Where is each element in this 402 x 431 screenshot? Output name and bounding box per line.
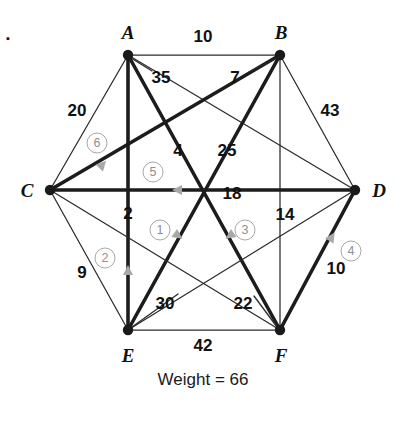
vertex-dot-B: [275, 50, 285, 60]
graph-figure: 10203524743251418922301042ABCDEF123456 .…: [0, 0, 402, 431]
edge-weight-BD: 43: [321, 102, 340, 119]
edge-weight-DE: 30: [156, 295, 175, 312]
step-order-marker-5: 5: [143, 162, 164, 183]
edge-weight-BC: 7: [230, 69, 239, 86]
edge-CE: [50, 190, 128, 330]
edge-weight-BF: 14: [276, 206, 295, 223]
vertex-label-B: B: [275, 23, 288, 42]
edge-weight-DF: 10: [327, 260, 346, 277]
step-order-marker-1: 1: [150, 220, 171, 241]
vertex-label-E: E: [122, 346, 135, 365]
edge-weight-AF: 4: [173, 142, 182, 159]
step-order-number: 3: [235, 220, 256, 241]
edge-weight-AD: 35: [152, 69, 171, 86]
edge-weight-AE: 2: [123, 205, 132, 222]
step-order-number: 5: [143, 162, 164, 183]
vertex-dot-E: [123, 325, 133, 335]
edge-weight-CE: 9: [77, 264, 86, 281]
total-weight-label: Weight = 66: [158, 371, 249, 388]
arrow-step-5: [172, 185, 182, 195]
step-order-marker-4: 4: [341, 241, 362, 262]
vertex-label-A: A: [122, 23, 135, 42]
step-order-marker-6: 6: [87, 133, 108, 154]
step-order-marker-2: 2: [95, 248, 116, 269]
vertex-label-D: D: [372, 181, 386, 200]
arrow-step-2: [123, 265, 133, 275]
edges-layer: [50, 55, 355, 330]
edge-weight-BE: 25: [218, 142, 237, 159]
vertex-label-C: C: [21, 181, 34, 200]
corner-item-number: .: [5, 24, 10, 43]
edge-AC: [50, 55, 128, 190]
step-order-number: 4: [341, 241, 362, 262]
edge-weight-AB: 10: [194, 28, 213, 45]
vertex-dot-A: [123, 50, 133, 60]
graph-canvas: [0, 0, 402, 431]
vertex-dot-F: [275, 325, 285, 335]
step-order-number: 6: [87, 133, 108, 154]
step-order-marker-3: 3: [235, 220, 256, 241]
vertex-dot-D: [350, 185, 360, 195]
vertex-label-F: F: [275, 346, 288, 365]
vertex-dot-C: [45, 185, 55, 195]
edge-weight-CF: 22: [234, 295, 253, 312]
edge-weight-CD: 18: [223, 185, 242, 202]
edge-BD: [280, 55, 355, 190]
step-order-number: 2: [95, 248, 116, 269]
edge-weight-AC: 20: [68, 102, 87, 119]
step-order-number: 1: [150, 220, 171, 241]
edge-weight-EF: 42: [194, 337, 213, 354]
